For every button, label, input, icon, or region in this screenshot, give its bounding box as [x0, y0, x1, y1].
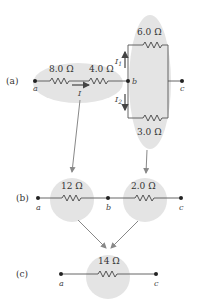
- node-a-label: a: [36, 203, 41, 212]
- resistor-12ohm-label: 12 Ω: [61, 181, 83, 191]
- node-c: [179, 196, 183, 200]
- circuit-diagram: (a) 8.0 Ω 4.0 Ω I a 6.0 Ω 3.0 Ω I1 I2 b …: [0, 0, 199, 302]
- node-c-label: c: [180, 84, 185, 93]
- reduction-arrow-icon: [111, 221, 138, 248]
- node-a-label: a: [33, 84, 38, 93]
- panel-c-label: (c): [16, 269, 28, 279]
- panel-c: (c) 14 Ω a c: [16, 255, 159, 299]
- current-i2-label: I2: [114, 95, 122, 105]
- resistor-8ohm-label: 8.0 Ω: [49, 64, 74, 74]
- node-b-label: b: [106, 203, 111, 212]
- reduction-arrow-icon: [146, 150, 147, 173]
- node-c: [154, 272, 158, 276]
- node-a-label: a: [59, 279, 64, 288]
- panel-b: (b) 12 Ω 2.0 Ω a b c: [16, 178, 184, 222]
- panel-a: (a) 8.0 Ω 4.0 Ω I a 6.0 Ω 3.0 Ω I1 I2 b …: [6, 15, 185, 149]
- node-b: [126, 79, 130, 83]
- node-c-label: c: [154, 279, 159, 288]
- resistor-3ohm-label: 3.0 Ω: [137, 127, 162, 137]
- reduction-arrow-icon: [78, 220, 106, 248]
- resistor-4ohm-label: 4.0 Ω: [89, 64, 114, 74]
- reduction-arrow-icon: [72, 100, 80, 172]
- panel-a-label: (a): [6, 76, 18, 86]
- node-a: [59, 272, 63, 276]
- node-b-label: b: [132, 77, 137, 86]
- current-i1-label: I1: [114, 57, 122, 67]
- node-c: [180, 79, 184, 83]
- node-b: [106, 196, 110, 200]
- resistor-2ohm-label: 2.0 Ω: [131, 181, 156, 191]
- resistor-14ohm-label: 14 Ω: [98, 256, 120, 266]
- resistor-6ohm-label: 6.0 Ω: [137, 27, 162, 37]
- node-a: [33, 79, 37, 83]
- node-a: [36, 196, 40, 200]
- panel-b-label: (b): [16, 193, 29, 203]
- node-c-label: c: [179, 203, 184, 212]
